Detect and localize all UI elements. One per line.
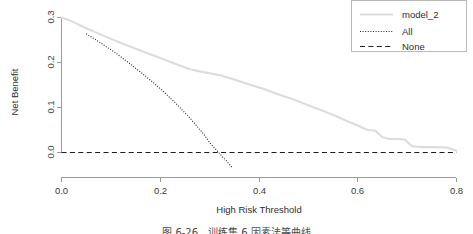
decision-curve-figure: 0.3 0.2 0.1 0.0 0.0 0.2 0.4 0.6 0.8 High…: [0, 0, 473, 234]
decision-curve-chart: 0.3 0.2 0.1 0.0 0.0 0.2 0.4 0.6 0.8 High…: [0, 0, 473, 234]
legend-label-model_2: model_2: [402, 9, 438, 20]
x-tick-label-0.6: 0.6: [351, 185, 364, 196]
x-tick-label-0.0: 0.0: [55, 185, 68, 196]
figure-caption: 图 6-26 训练集 6 因素法等曲线: [0, 226, 473, 234]
y-tick-label-0.1: 0.1: [45, 100, 56, 113]
x-axis-title: High Risk Threshold: [216, 204, 301, 215]
y-axis-ticks: 0.3 0.2 0.1 0.0: [45, 10, 61, 158]
x-tick-label-0.2: 0.2: [154, 185, 167, 196]
series-all-line: [86, 34, 232, 168]
y-tick-label-0.0: 0.0: [45, 145, 56, 158]
x-tick-label-0.8: 0.8: [450, 185, 463, 196]
x-tick-label-0.4: 0.4: [253, 185, 266, 196]
chart-legend: model_2 All None: [352, 1, 467, 53]
y-tick-label-0.2: 0.2: [45, 55, 56, 68]
x-axis-ticks: 0.0 0.2 0.4 0.6 0.8: [55, 178, 463, 196]
legend-label-all: All: [402, 26, 413, 37]
y-axis-title: Net Benefit: [9, 68, 20, 115]
y-tick-label-0.3: 0.3: [45, 10, 56, 23]
legend-label-none: None: [402, 41, 425, 52]
